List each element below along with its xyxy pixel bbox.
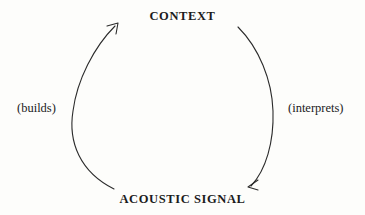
interprets-arrowhead-icon bbox=[248, 180, 258, 190]
edge-label-interprets: (interprets) bbox=[288, 101, 344, 116]
edge-label-builds: (builds) bbox=[17, 101, 56, 116]
cycle-diagram: CONTEXT ACOUSTIC SIGNAL (builds) (interp… bbox=[0, 0, 365, 215]
node-label-acoustic-signal: ACOUSTIC SIGNAL bbox=[0, 192, 365, 207]
builds-arc-path bbox=[72, 26, 115, 189]
node-label-context: CONTEXT bbox=[0, 9, 365, 24]
interprets-arc-path bbox=[238, 27, 273, 186]
